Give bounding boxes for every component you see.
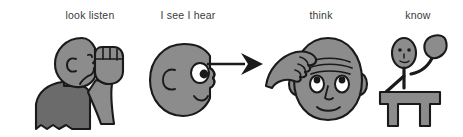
head-hand-on-forehead-icon (262, 26, 380, 136)
panel-know: know (378, 0, 458, 137)
panel-look-listen: look listen (22, 0, 158, 137)
panel-label-look-listen: look listen (22, 9, 158, 21)
panel-label-i-see-i-hear: I see I hear (140, 9, 236, 21)
panel-think: think (262, 0, 380, 137)
panel-label-know: know (378, 9, 458, 21)
arrow-right-icon (205, 44, 265, 84)
pictogram-sequence: look listen (0, 0, 463, 137)
stick-figure-raised-hand-at-desk-icon (378, 26, 458, 136)
panel-label-think: think (262, 9, 380, 21)
person-hand-to-ear-icon (22, 26, 158, 136)
